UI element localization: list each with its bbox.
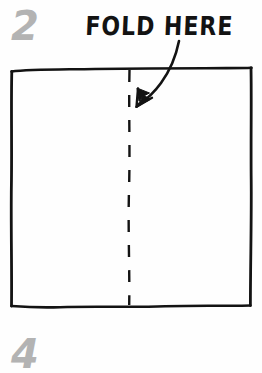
paper-edge-top — [12, 68, 252, 72]
instruction-diagram-canvas: 2 FOLD HERE 4 — [0, 0, 262, 373]
fold-line-dashes — [129, 70, 130, 305]
step-number-top: 2 — [11, 6, 38, 46]
sketch-drawing — [0, 0, 262, 373]
step-number-bottom: 4 — [11, 334, 38, 373]
fold-here-label: FOLD HERE — [85, 11, 234, 41]
fold-arrow-head-barb-lower — [137, 89, 139, 107]
paper-edge-left — [11, 72, 12, 307]
paper-edge-bottom — [12, 306, 251, 308]
fold-line — [129, 70, 130, 305]
fold-arrow — [136, 41, 179, 107]
paper-edge-right — [250, 68, 251, 306]
paper-sheet — [11, 68, 251, 308]
